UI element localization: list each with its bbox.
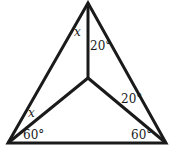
angle-label-top-left: x	[74, 25, 81, 39]
angle-label-right-upper: 20°	[121, 92, 142, 106]
segment-interior-to-bottom-right	[88, 78, 166, 143]
angle-label-bottom-left-lower: 60°	[23, 128, 44, 142]
segment-interior-to-bottom-left	[8, 78, 88, 143]
angle-label-bottom-left-upper: x	[28, 106, 35, 120]
angle-label-bottom-right: 60°	[131, 128, 152, 142]
angle-label-top-right: 20°	[90, 39, 111, 53]
triangle-diagram: x 20° x 60° 20° 60°	[0, 0, 171, 146]
